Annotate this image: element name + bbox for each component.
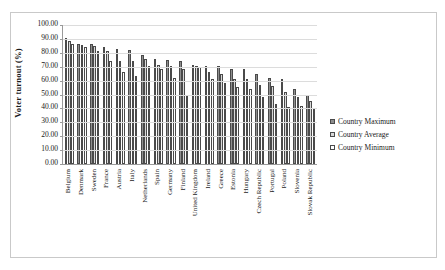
x-axis-tick-label: Estonia <box>230 169 237 190</box>
bar <box>297 97 300 164</box>
x-axis-tick-label: Austria <box>116 169 123 190</box>
y-axis-tick <box>60 81 63 82</box>
legend-swatch-icon <box>330 119 335 124</box>
x-axis-tick-cell: Belgium <box>62 167 75 247</box>
y-axis-tick-label: 100.00 <box>37 20 58 28</box>
x-axis-tick-label: Poland <box>281 169 288 188</box>
gridline <box>63 136 317 137</box>
bar <box>166 60 169 164</box>
gridline <box>63 81 317 82</box>
y-axis-tick-labels: 100.0090.0080.0070.0060.0050.0040.0030.0… <box>22 24 58 164</box>
x-axis-tick-cell: Finland <box>176 167 189 247</box>
x-axis-tick-label: Hungary <box>243 169 250 194</box>
y-axis-tick <box>60 25 63 26</box>
legend-label: Country Maximum <box>338 116 396 127</box>
x-axis-tick-label: Netherlands <box>141 169 148 203</box>
x-axis-tick-cell: Czech Republic <box>253 167 266 247</box>
bar <box>306 95 309 165</box>
y-axis-tick <box>60 67 63 68</box>
x-axis-tick-cell: Estonia <box>227 167 240 247</box>
bar <box>90 44 93 164</box>
legend-label: Country Minimum <box>338 142 394 153</box>
bar <box>132 61 135 164</box>
x-axis-tick-label: Finland <box>179 169 186 190</box>
x-axis-tick-label: Denmark <box>78 169 85 195</box>
x-axis-tick-label: Italy <box>128 169 135 182</box>
x-axis-tick-cell: Denmark <box>75 167 88 247</box>
bar <box>103 47 106 164</box>
y-axis-tick <box>60 136 63 137</box>
x-axis-tick-label: Greece <box>217 169 224 189</box>
y-axis-tick <box>60 39 63 40</box>
bar <box>68 41 71 164</box>
bar <box>109 61 112 164</box>
bar <box>284 92 287 164</box>
x-axis-tick-cell: Germany <box>164 167 177 247</box>
y-axis-tick-label: 70.00 <box>41 62 58 70</box>
y-axis-tick-label: 50.00 <box>41 90 58 98</box>
y-axis-tick-label: 10.00 <box>41 145 58 153</box>
bar <box>309 101 312 164</box>
bar <box>154 59 157 164</box>
gridline <box>63 150 317 151</box>
gridline <box>63 122 317 123</box>
bar <box>259 85 262 164</box>
y-axis-tick-label: 90.00 <box>41 34 58 42</box>
x-axis-tick-label: Slovak Republic <box>306 169 313 215</box>
bar <box>84 47 87 164</box>
x-axis-tick-label: Slovenia <box>294 169 301 194</box>
plot-area <box>62 25 317 165</box>
x-axis-tick-label: Germany <box>166 169 173 195</box>
legend-swatch-icon <box>330 132 335 137</box>
bar <box>144 59 147 164</box>
legend-item: Country Minimum <box>330 142 396 153</box>
y-axis-tick-label: 60.00 <box>41 76 58 84</box>
bar <box>179 61 182 164</box>
y-axis-tick <box>60 53 63 54</box>
legend-label: Country Average <box>338 129 389 140</box>
y-axis-tick-label: 30.00 <box>41 118 58 126</box>
bar <box>262 97 265 164</box>
x-axis-tick-cell: United Kingdom <box>189 167 202 247</box>
x-axis-tick-cell: Greece <box>214 167 227 247</box>
y-axis-tick <box>60 150 63 151</box>
x-axis-tick-cell: Sweden <box>87 167 100 247</box>
gridline <box>63 108 317 109</box>
legend-swatch-icon <box>330 145 335 150</box>
x-axis-tick-cell: Netherlands <box>138 167 151 247</box>
x-axis-tick-cell: Slovenia <box>291 167 304 247</box>
x-axis-tick-cell: Spain <box>151 167 164 247</box>
y-axis-tick <box>60 164 63 165</box>
gridline <box>63 39 317 40</box>
x-axis-tick-label: Portugal <box>268 169 275 193</box>
voter-turnout-bar-chart: Voter turnout (%) 100.0090.0080.0070.006… <box>0 0 445 270</box>
bar <box>71 44 74 164</box>
x-axis-tick-label: Ireland <box>205 169 212 189</box>
bar <box>141 55 144 164</box>
y-axis-tick <box>60 122 63 123</box>
bar <box>233 79 236 164</box>
bar <box>249 89 252 164</box>
x-axis-tick-cell: Italy <box>126 167 139 247</box>
bar <box>77 44 80 164</box>
x-axis-tick-label: United Kingdom <box>192 169 199 216</box>
legend-item: Country Average <box>330 129 396 140</box>
x-axis-tick-label: Spain <box>154 169 161 185</box>
y-axis-tick-label: 0.00 <box>45 159 58 167</box>
bar <box>65 38 68 164</box>
x-axis-tick-label: France <box>103 169 110 188</box>
legend-item: Country Maximum <box>330 116 396 127</box>
x-axis-tick-cell: France <box>100 167 113 247</box>
x-axis-tick-cell: Austria <box>113 167 126 247</box>
bar <box>275 104 278 164</box>
bar <box>271 86 274 164</box>
gridline <box>63 25 317 26</box>
gridline <box>63 95 317 96</box>
y-axis-tick-label: 80.00 <box>41 48 58 56</box>
bar <box>119 61 122 164</box>
x-axis-tick-labels: BelgiumDenmarkSwedenFranceAustriaItalyNe… <box>62 167 316 247</box>
x-axis-tick-label: Sweden <box>90 169 97 191</box>
bar <box>81 45 84 164</box>
gridline <box>63 53 317 54</box>
x-axis-tick-label: Czech Republic <box>255 169 262 214</box>
